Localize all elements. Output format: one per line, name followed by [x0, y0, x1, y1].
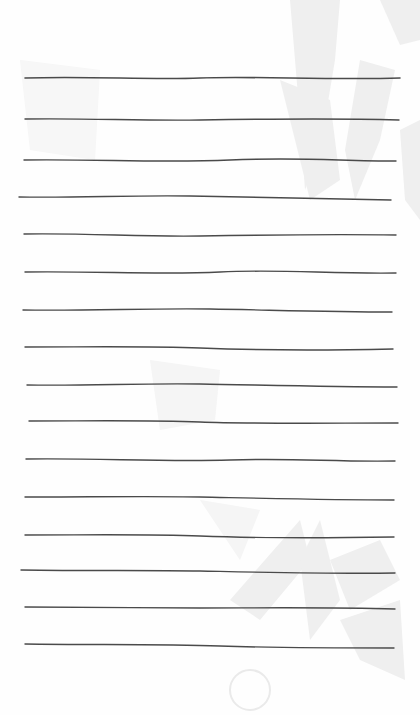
ruled-line	[25, 271, 396, 273]
ruled-line	[25, 497, 394, 500]
lined-paper	[0, 0, 420, 715]
ruled-line	[21, 570, 395, 573]
ruled-line	[24, 159, 396, 161]
ruled-line	[25, 644, 394, 648]
ruled-line	[24, 234, 396, 236]
ruled-line	[25, 535, 394, 538]
ruled-lines	[0, 0, 420, 715]
ruled-line	[25, 119, 399, 120]
ruled-line	[25, 77, 400, 78]
ruled-line	[19, 196, 391, 200]
ruled-line	[27, 384, 397, 387]
ruled-line	[26, 459, 395, 461]
ruled-line	[29, 421, 398, 424]
ruled-line	[23, 309, 392, 312]
ruled-line	[25, 607, 395, 609]
ruled-line	[25, 347, 393, 350]
